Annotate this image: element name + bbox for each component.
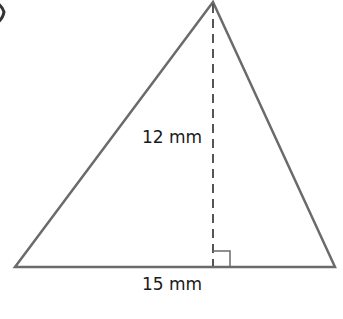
right-angle-marker — [213, 251, 230, 267]
triangle-diagram: 12 mm 15 mm — [0, 0, 343, 319]
base-label: 15 mm — [142, 276, 202, 293]
triangle-figure — [0, 0, 343, 319]
question-marker-arc — [0, 0, 4, 26]
height-label: 12 mm — [142, 129, 202, 146]
